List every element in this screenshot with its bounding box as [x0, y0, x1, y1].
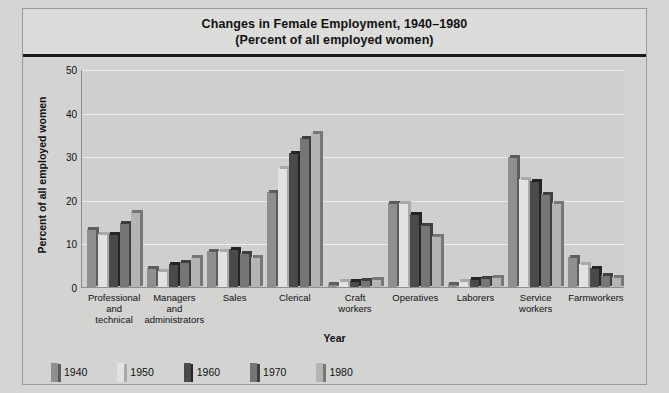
bar-top-face: [280, 166, 289, 169]
bar-top-face: [181, 260, 190, 263]
x-axis-category-label: Farmworkers: [557, 292, 635, 303]
y-axis-tick-label: 20: [66, 195, 77, 206]
bar-front-face: [399, 203, 408, 288]
bar-group: [267, 70, 322, 288]
bar-top-face: [471, 277, 480, 280]
legend-swatch-side: [124, 364, 127, 382]
bar: [191, 257, 200, 288]
bar-top-face: [362, 278, 371, 281]
legend-item[interactable]: 1950: [117, 363, 153, 382]
bar-side-face: [441, 234, 444, 286]
y-axis-tick-label: 40: [66, 108, 77, 119]
legend-swatch-front: [51, 363, 58, 382]
chart-figure: Changes in Female Employment, 1940–1980 …: [0, 0, 669, 393]
bar-front-face: [120, 223, 129, 288]
legend-label: 1940: [64, 366, 87, 378]
legend-swatch-front: [250, 363, 257, 382]
bar: [541, 194, 550, 288]
bar-front-face: [87, 229, 96, 288]
bar-top-face: [159, 269, 168, 272]
bar-front-face: [568, 257, 577, 288]
chart-legend: 19401950196019701980: [23, 357, 646, 387]
bar-top-face: [148, 266, 157, 269]
bar-top-face: [253, 255, 262, 258]
bar-top-face: [269, 190, 278, 193]
bar-front-face: [251, 257, 260, 288]
y-axis-tick-label: 50: [66, 65, 77, 76]
bar: [158, 271, 167, 288]
bar-top-face: [313, 131, 322, 134]
bar-top-face: [433, 234, 442, 237]
bar: [289, 153, 298, 288]
bar-top-face: [121, 221, 130, 224]
plot-canvas: 01020304050 Professional and technicalMa…: [81, 70, 624, 288]
legend-swatch: [250, 363, 257, 382]
bar-top-face: [389, 201, 398, 204]
bar-front-face: [421, 225, 430, 288]
bar-top-face: [411, 212, 420, 215]
bar-front-face: [519, 179, 528, 288]
y-axis-label: Percent of all employed women: [33, 70, 51, 280]
bar-front-face: [278, 168, 287, 288]
legend-item[interactable]: 1980: [316, 363, 352, 382]
legend-item[interactable]: 1970: [250, 363, 286, 382]
bar: [109, 234, 118, 289]
bar-top-face: [88, 227, 97, 230]
bar-top-face: [592, 266, 601, 269]
legend-item[interactable]: 1940: [51, 363, 87, 382]
bar-top-face: [449, 282, 458, 285]
y-axis-label-text: Percent of all employed women: [36, 97, 48, 254]
x-axis-label: Year: [23, 332, 646, 344]
bar-front-face: [207, 251, 216, 288]
bar-top-face: [482, 276, 491, 279]
bar-side-face: [140, 210, 143, 286]
bar: [590, 268, 599, 288]
bar: [568, 257, 577, 288]
legend-label: 1970: [263, 366, 286, 378]
bar-front-face: [289, 153, 298, 288]
legend-swatch-side: [191, 364, 194, 382]
bar-front-face: [541, 194, 550, 288]
bar-front-face: [311, 133, 320, 288]
bar: [218, 251, 227, 288]
bar-top-face: [209, 249, 218, 252]
bar-top-face: [192, 255, 201, 258]
bar-top-face: [291, 151, 300, 154]
chart-title: Changes in Female Employment, 1940–1980: [202, 16, 468, 32]
bar-front-face: [432, 236, 441, 288]
chart-title-block: Changes in Female Employment, 1940–1980 …: [23, 9, 646, 57]
bar-top-face: [302, 136, 311, 139]
bar: [552, 203, 561, 288]
bar-top-face: [510, 155, 519, 158]
bar: [579, 264, 588, 288]
bar-top-face: [340, 279, 349, 282]
bar: [207, 251, 216, 288]
bar-front-face: [267, 192, 276, 288]
bar-front-face: [98, 234, 107, 289]
bar-group: [568, 70, 623, 288]
bar-top-face: [132, 210, 141, 213]
bar: [267, 192, 276, 288]
bar-top-face: [170, 262, 179, 265]
legend-label: 1950: [130, 366, 153, 378]
bar-front-face: [180, 262, 189, 288]
bar-front-face: [147, 268, 156, 288]
bar-top-face: [521, 177, 530, 180]
bar: [300, 138, 309, 288]
bar-front-face: [410, 214, 419, 288]
bar: [399, 203, 408, 288]
bar-side-face: [320, 131, 323, 286]
bar-top-face: [373, 277, 382, 280]
bar-top-face: [493, 275, 502, 278]
y-axis-tick-label: 10: [66, 239, 77, 250]
bar-group: [448, 70, 503, 288]
bar: [229, 249, 238, 288]
bar: [432, 236, 441, 288]
bar-side-face: [200, 255, 203, 286]
chart-frame: Changes in Female Employment, 1940–1980 …: [22, 8, 647, 385]
bar: [87, 229, 96, 288]
legend-item[interactable]: 1960: [184, 363, 220, 382]
bar: [251, 257, 260, 288]
bar: [120, 223, 129, 288]
bar: [240, 253, 249, 288]
